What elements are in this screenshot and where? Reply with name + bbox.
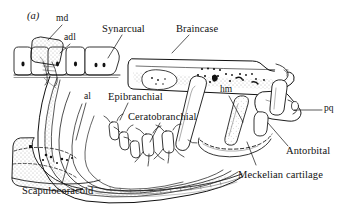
leader-line-antorbital xyxy=(268,123,288,146)
hyoid-bar-posterior xyxy=(225,96,249,145)
label-antorbital: Antorbital xyxy=(286,146,330,157)
leader-line-al xyxy=(76,103,86,140)
label-md: md xyxy=(56,14,68,24)
leader-line-braincase xyxy=(172,35,189,53)
panel-label: (a) xyxy=(27,10,39,21)
label-meckelian-cartilage: Meckelian cartilage xyxy=(238,170,323,181)
braincase xyxy=(128,59,294,95)
label-scapulocoracoid: Scapulocoracoid xyxy=(22,186,93,197)
label-braincase: Braincase xyxy=(176,24,218,35)
label-hm: hm xyxy=(220,85,232,95)
scapulocoracoid xyxy=(12,138,100,192)
figure-panel: (a) mdadlSynarcualBraincasehmpqalEpibran… xyxy=(0,0,349,211)
label-epibranchial: Epibranchial xyxy=(108,92,163,103)
leader-line-epibranchial xyxy=(120,103,128,120)
leader-line-ceratobranchial xyxy=(150,123,160,142)
label-adl: adl xyxy=(64,33,76,43)
label-synarcual: Synarcual xyxy=(102,24,145,35)
label-pq: pq xyxy=(324,104,334,114)
leader-line-meckelian-cartilage xyxy=(247,142,256,165)
leader-line-md xyxy=(48,25,62,40)
label-ceratobranchial: Ceratobranchial xyxy=(128,112,197,123)
vertebral-segments xyxy=(14,47,120,78)
label-al: al xyxy=(84,92,91,102)
